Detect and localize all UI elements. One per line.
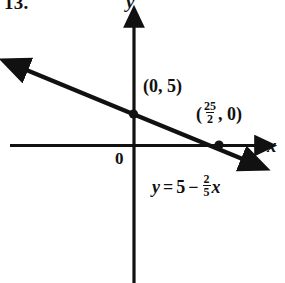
equation-slope-numerator: 2 <box>203 173 211 185</box>
x-intercept-open-paren: ( <box>196 105 202 123</box>
x-intercept-denominator: 2 <box>206 112 214 125</box>
x-intercept-fraction: 25 2 <box>203 100 217 125</box>
equation-variable: x <box>212 178 221 196</box>
x-axis-label: x <box>267 136 277 155</box>
problem-number: 13. <box>4 0 28 12</box>
x-intercept-point <box>214 140 223 149</box>
y-axis-label: y <box>126 0 134 11</box>
figure-canvas: 13. y x 0 (0, 5) ( 25 2 , 0) y = 5 − 2 5… <box>0 0 285 283</box>
equation-constant: 5 <box>176 178 185 196</box>
y-intercept-point <box>129 109 138 118</box>
x-intercept-label: ( 25 2 , 0) <box>196 101 242 126</box>
equation-equals-sign: = <box>160 178 176 196</box>
plotted-line-left-ray <box>24 69 133 114</box>
equation-slope-denominator: 5 <box>203 185 211 198</box>
equation-lhs: y <box>152 178 160 196</box>
x-intercept-numerator: 25 <box>203 100 217 112</box>
y-intercept-label: (0, 5) <box>143 77 182 95</box>
coordinate-plane-graphic <box>0 0 285 283</box>
origin-label: 0 <box>115 150 124 167</box>
equation-slope-fraction: 2 5 <box>203 173 211 198</box>
equation-minus-sign: − <box>185 178 201 196</box>
x-intercept-close-paren: , 0) <box>218 105 242 123</box>
equation-label: y = 5 − 2 5 x <box>152 174 221 199</box>
